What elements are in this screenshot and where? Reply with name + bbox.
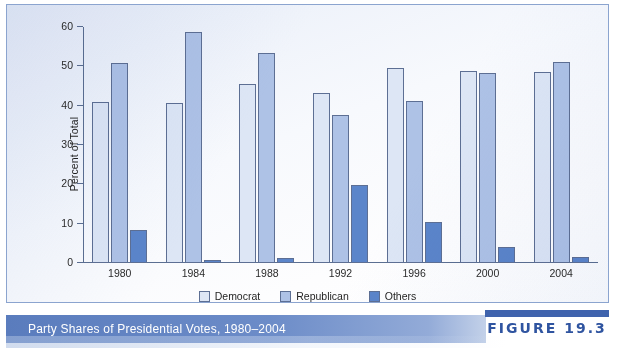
bar-group: 1984 xyxy=(157,27,231,263)
legend-swatch-others xyxy=(369,291,380,302)
y-axis-tick-label: 30 xyxy=(61,139,73,150)
plot-area: 0102030405060 19801984198819921996200020… xyxy=(83,27,598,263)
bar-republican-1980 xyxy=(111,63,128,263)
bar-others-1992 xyxy=(351,185,368,263)
bar-republican-1984 xyxy=(185,32,202,263)
bar-group: 2000 xyxy=(451,27,525,263)
x-axis-tick-label: 1988 xyxy=(230,267,304,279)
y-axis-tick-label: 40 xyxy=(61,99,73,110)
legend-swatch-republican xyxy=(280,291,291,302)
bar-others-1980 xyxy=(130,230,147,263)
bar-group: 1980 xyxy=(83,27,157,263)
bar-republican-1992 xyxy=(332,115,349,263)
legend-item-others[interactable]: Others xyxy=(369,291,417,302)
y-axis-tick-label: 60 xyxy=(61,21,73,32)
caption-sheen xyxy=(6,336,506,348)
x-axis-tick-label: 1996 xyxy=(377,267,451,279)
bar-democrat-1980 xyxy=(92,102,109,263)
legend-label-others: Others xyxy=(385,291,417,302)
bar-democrat-2004 xyxy=(534,72,551,263)
figure-rule xyxy=(485,310,609,317)
bar-democrat-1992 xyxy=(313,93,330,263)
bar-republican-2004 xyxy=(553,62,570,263)
x-axis-tick-label: 2004 xyxy=(524,267,598,279)
bar-group: 1996 xyxy=(377,27,451,263)
legend-swatch-democrat xyxy=(199,291,210,302)
bar-others-2000 xyxy=(498,247,515,263)
caption-title: Party Shares of Presidential Votes, 1980… xyxy=(28,322,286,336)
legend-item-republican[interactable]: Republican xyxy=(280,291,349,302)
bar-democrat-2000 xyxy=(460,71,477,263)
bar-democrat-1996 xyxy=(387,68,404,263)
y-axis-tick-label: 0 xyxy=(67,257,73,268)
bar-republican-1996 xyxy=(406,101,423,263)
bar-others-2004 xyxy=(572,257,589,263)
figure-number-label: FIGURE 19.3 xyxy=(485,320,609,336)
bar-republican-2000 xyxy=(479,73,496,263)
bar-group: 1988 xyxy=(230,27,304,263)
bar-democrat-1988 xyxy=(239,84,256,263)
x-axis-tick-label: 1984 xyxy=(157,267,231,279)
y-axis-tick-label: 50 xyxy=(61,60,73,71)
bar-others-1984 xyxy=(204,260,221,263)
figure-number-block: FIGURE 19.3 xyxy=(485,310,609,336)
legend-item-democrat[interactable]: Democrat xyxy=(199,291,261,302)
bar-group: 1992 xyxy=(304,27,378,263)
legend-label-democrat: Democrat xyxy=(215,291,261,302)
bar-others-1996 xyxy=(425,222,442,263)
legend-label-republican: Republican xyxy=(296,291,349,302)
chart-panel: Percent of Total 0102030405060 198019841… xyxy=(6,4,609,303)
y-axis-tick-label: 20 xyxy=(61,178,73,189)
bar-others-1988 xyxy=(277,258,294,263)
x-axis-tick-label: 1980 xyxy=(83,267,157,279)
y-axis-tick-label: 10 xyxy=(61,217,73,228)
x-axis-tick-label: 2000 xyxy=(451,267,525,279)
chart-legend: DemocratRepublicanOthers xyxy=(7,291,608,302)
bar-republican-1988 xyxy=(258,53,275,263)
x-axis-tick-label: 1992 xyxy=(304,267,378,279)
figure-container: Percent of Total 0102030405060 198019841… xyxy=(0,0,617,353)
bar-group: 2004 xyxy=(524,27,598,263)
bar-democrat-1984 xyxy=(166,103,183,263)
